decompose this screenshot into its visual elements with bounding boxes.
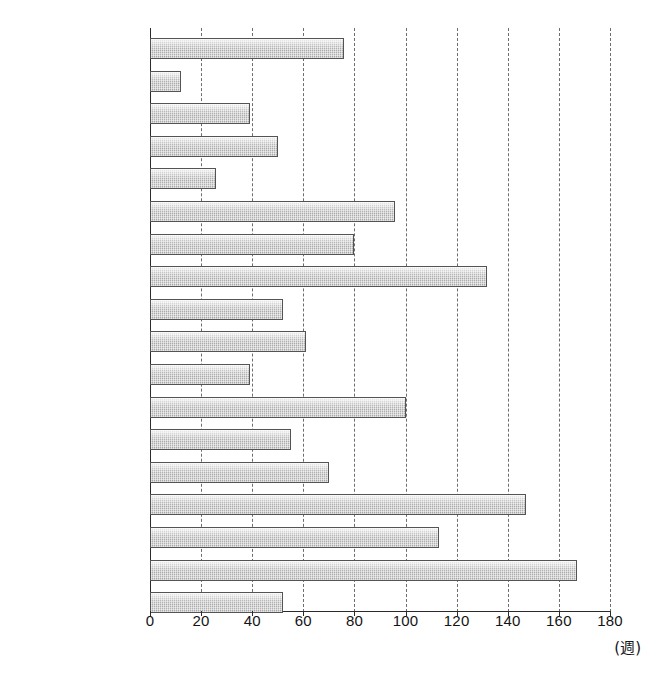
chart-row: Malla 2002: [150, 136, 610, 157]
bar-15: [150, 527, 439, 548]
bar-3: [150, 136, 278, 157]
bar-13: [150, 462, 329, 483]
plot-area: Lieberman 2003Wiersma 2000Amminger 2002M…: [150, 28, 610, 612]
bar-11: [150, 397, 406, 418]
x-axis-unit-label: (週): [614, 636, 641, 657]
bar-10: [150, 364, 250, 385]
bar-1: [150, 71, 181, 92]
bar-2: [150, 103, 250, 124]
bar-12: [150, 429, 291, 450]
bar-8: [150, 299, 283, 320]
chart-row: Loebel 1992: [150, 592, 610, 613]
chart-row: Verdoux 2001: [150, 201, 610, 222]
chart-row: Browne 2000: [150, 397, 610, 418]
bar-5: [150, 201, 395, 222]
chart-row: McGorry 1996: [150, 494, 610, 515]
bar-6: [150, 234, 354, 255]
chart-row: Robinson 1999: [150, 462, 610, 483]
figure-caption: [0, 676, 657, 687]
bar-0: [150, 38, 344, 59]
chart-row: Wiersma 2000: [150, 71, 610, 92]
x-tick-label-180: 180: [580, 612, 640, 629]
chart-row: Larsen 1996: [150, 527, 610, 548]
chart-row: Hoff 2000: [150, 299, 610, 320]
bar-4: [150, 168, 216, 189]
chart-row: Lieberman 2003: [150, 38, 610, 59]
bar-9: [150, 331, 306, 352]
chart-row: Amminger 2002: [150, 103, 610, 124]
bar-7: [150, 266, 487, 287]
chart-row: Drake 2000: [150, 364, 610, 385]
chart-row: Barnes 2000: [150, 429, 610, 450]
chart-row: Larsen 2000: [150, 266, 610, 287]
chart-row: Linszenet 2001: [150, 168, 610, 189]
chart-row: Szymanski 1996: [150, 560, 610, 581]
chart-row: Ho 2000: [150, 331, 610, 352]
bar-17: [150, 592, 283, 613]
bar-14: [150, 494, 526, 515]
gridline-180: [610, 28, 611, 612]
chart-row: Black 2001: [150, 234, 610, 255]
bar-16: [150, 560, 577, 581]
bar-chart: Lieberman 2003Wiersma 2000Amminger 2002M…: [0, 0, 657, 687]
